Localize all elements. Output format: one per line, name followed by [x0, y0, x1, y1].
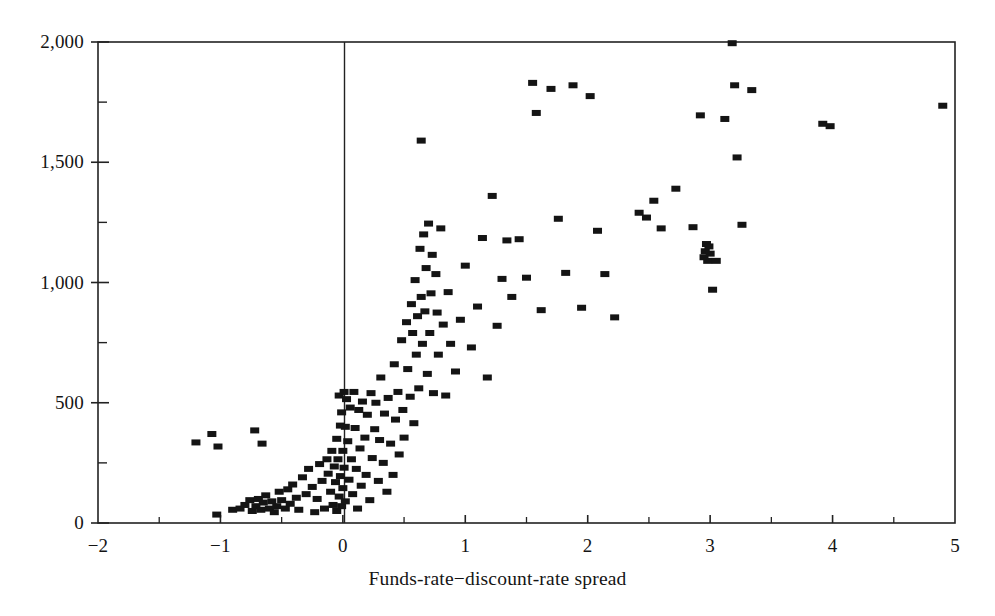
data-point-marker	[332, 436, 341, 442]
data-point-marker	[537, 307, 546, 313]
data-point-marker	[428, 252, 437, 258]
data-points	[191, 40, 947, 517]
data-point-marker	[728, 40, 737, 46]
data-point-marker	[384, 395, 393, 401]
data-point-marker	[351, 425, 360, 431]
data-point-marker	[338, 448, 347, 454]
data-point-marker	[322, 456, 331, 462]
data-point-marker	[308, 484, 317, 490]
data-point-marker	[292, 495, 301, 501]
y-tick-label: 500	[0, 392, 84, 414]
data-point-marker	[649, 198, 658, 204]
data-point-marker	[310, 509, 319, 515]
data-point-marker	[375, 437, 384, 443]
data-point-marker	[586, 93, 595, 99]
data-point-marker	[270, 509, 279, 515]
data-point-marker	[360, 435, 369, 441]
data-point-marker	[320, 506, 329, 512]
y-tick-label: 1,000	[0, 272, 84, 294]
data-point-marker	[393, 389, 402, 395]
data-point-marker	[657, 225, 666, 231]
data-point-marker	[467, 344, 476, 350]
data-point-marker	[415, 246, 424, 252]
data-point-marker	[368, 455, 377, 461]
data-point-marker	[446, 341, 455, 347]
data-point-marker	[354, 407, 363, 413]
data-point-marker	[478, 235, 487, 241]
data-point-marker	[708, 287, 717, 293]
data-point-marker	[395, 451, 404, 457]
data-point-marker	[365, 497, 374, 503]
data-point-marker	[720, 116, 729, 122]
data-point-marker	[414, 385, 423, 391]
data-point-marker	[593, 228, 602, 234]
data-point-marker	[379, 460, 388, 466]
x-tick-label: 1	[460, 535, 470, 557]
data-point-marker	[258, 441, 267, 447]
data-point-marker	[493, 323, 502, 329]
data-point-marker	[341, 498, 350, 504]
data-point-marker	[577, 305, 586, 311]
data-point-marker	[704, 243, 713, 249]
x-tick-label: 5	[950, 535, 960, 557]
data-point-marker	[422, 265, 431, 271]
data-point-marker	[689, 224, 698, 230]
data-point-marker	[412, 352, 421, 358]
data-point-marker	[441, 393, 450, 399]
data-point-marker	[429, 390, 438, 396]
data-point-marker	[938, 103, 947, 109]
data-point-marker	[712, 258, 721, 264]
scatter-plot-figure: 05001,0001,5002,000 −2−1012345 Funds-rat…	[0, 0, 995, 616]
data-point-marker	[343, 438, 352, 444]
data-point-marker	[212, 512, 221, 518]
data-point-marker	[357, 483, 366, 489]
data-point-marker	[507, 294, 516, 300]
data-point-marker	[730, 82, 739, 88]
data-point-marker	[340, 465, 349, 471]
data-point-marker	[371, 400, 380, 406]
plot-frame	[98, 42, 955, 523]
data-point-marker	[245, 497, 254, 503]
data-point-marker	[338, 485, 347, 491]
data-point-marker	[347, 456, 356, 462]
data-point-marker	[671, 186, 680, 192]
data-point-marker	[417, 138, 426, 144]
data-point-marker	[348, 491, 357, 497]
data-point-marker	[411, 277, 420, 283]
data-point-marker	[286, 501, 295, 507]
x-tick-label: −1	[210, 535, 231, 557]
axis-ticks	[91, 42, 894, 523]
y-tick-label: 2,000	[0, 31, 84, 53]
data-point-marker	[313, 496, 322, 502]
data-point-marker	[703, 258, 712, 264]
data-point-marker	[402, 319, 411, 325]
data-point-marker	[423, 371, 432, 377]
x-tick-label: −2	[88, 535, 109, 557]
data-point-marker	[376, 375, 385, 381]
y-tick-label: 1,500	[0, 151, 84, 173]
data-point-marker	[342, 396, 351, 402]
data-point-marker	[261, 492, 270, 498]
data-point-marker	[515, 236, 524, 242]
data-point-marker	[532, 110, 541, 116]
x-tick-label: 4	[828, 535, 838, 557]
data-point-marker	[324, 471, 333, 477]
data-point-marker	[382, 489, 391, 495]
data-point-marker	[561, 270, 570, 276]
data-point-marker	[439, 322, 448, 328]
data-point-marker	[398, 407, 407, 413]
data-point-marker	[337, 409, 346, 415]
data-point-marker	[554, 216, 563, 222]
data-point-marker	[498, 276, 507, 282]
data-point-marker	[400, 435, 409, 441]
data-point-marker	[349, 389, 358, 395]
data-point-marker	[407, 301, 416, 307]
data-point-marker	[256, 507, 265, 513]
data-point-marker	[417, 294, 426, 300]
data-point-marker	[546, 86, 555, 92]
data-point-marker	[488, 193, 497, 199]
data-point-marker	[502, 237, 511, 243]
data-point-marker	[600, 271, 609, 277]
data-point-marker	[427, 290, 436, 296]
data-point-marker	[272, 503, 281, 509]
